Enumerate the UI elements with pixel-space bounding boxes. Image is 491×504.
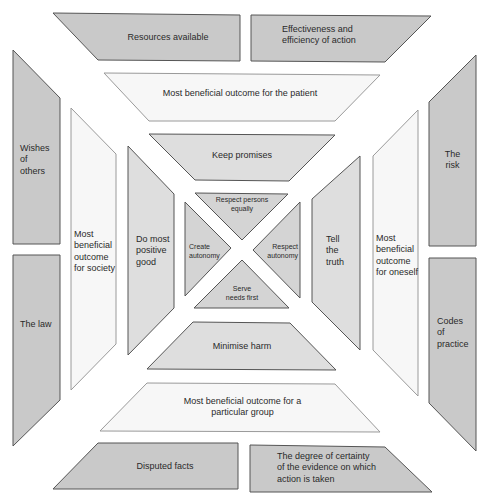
outer-left-top-label: Wishes of others	[20, 143, 60, 177]
outer-left-bottom-shape	[13, 255, 60, 446]
duty-top-label: Keep promises	[192, 150, 292, 161]
outcome-top-label: Most beneficial outcome for the patient	[140, 88, 340, 99]
outer-right-bottom-label: Codes of practice	[437, 316, 477, 350]
duty-right-label: Tell the truth	[326, 234, 360, 268]
core-top-label: Respect persons equally	[205, 196, 279, 214]
outcome-left-label: Most beneficial outcome for society	[74, 229, 119, 274]
core-bottom-label: Serve needs first	[218, 285, 266, 303]
outcome-right-label: Most beneficial outcome for oneself	[376, 233, 426, 278]
outcome-bottom-label: Most beneficial outcome for a particular…	[150, 396, 335, 419]
core-left-label: Create autonomy	[189, 243, 229, 261]
outer-right-top-label: The risk	[430, 149, 475, 172]
core-right-label: Respect autonomy	[258, 243, 298, 261]
outer-bottom-right-label: The degree of certainty of the evidence …	[277, 451, 407, 485]
outer-bottom-left-label: Disputed facts	[95, 461, 235, 472]
outer-right-bottom-shape	[429, 258, 476, 451]
outer-top-left-label: Resources available	[98, 32, 238, 43]
outer-left-bottom-label: The law	[20, 319, 60, 330]
outer-top-right-label: Effectiveness and efficiency of action	[282, 24, 402, 47]
duty-bottom-label: Minimise harm	[192, 341, 292, 352]
duty-left-label: Do most positive good	[136, 234, 176, 268]
